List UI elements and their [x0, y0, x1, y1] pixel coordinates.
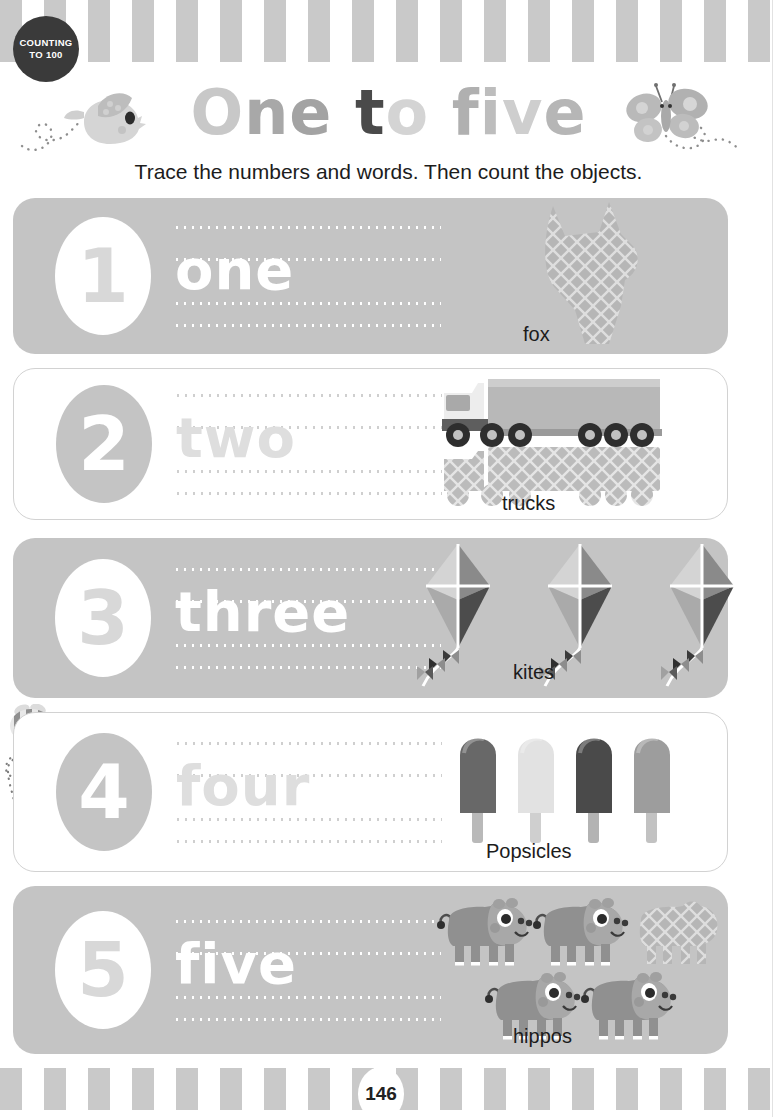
number-circle-3[interactable]: 3 — [55, 559, 151, 677]
title-letter-7: f — [452, 76, 480, 149]
truck — [426, 373, 676, 508]
trace-number-2: 2 — [78, 407, 130, 481]
counting-to-100-badge: COUNTING TO 100 — [13, 16, 79, 82]
right-edge-line — [772, 0, 773, 1117]
trace-guideline-3 — [173, 302, 441, 305]
popsicle — [570, 721, 618, 846]
worksheet-row-4: 4fourPopsicles — [13, 712, 728, 872]
object-label-popsicle: Popsicles — [486, 840, 572, 863]
hippo — [529, 892, 635, 976]
worksheet-row-2: 2twotrucks — [13, 368, 728, 520]
number-circle-2[interactable]: 2 — [56, 385, 152, 503]
instruction-text: Trace the numbers and words. Then count … — [0, 160, 777, 184]
trace-word-four: four — [176, 758, 310, 814]
top-stripe-band — [0, 0, 777, 62]
object-illustration-popsicle — [454, 721, 676, 846]
title-letter-4: t — [355, 76, 386, 149]
trace-word-five: five — [175, 936, 297, 992]
trace-guideline-3 — [173, 996, 441, 999]
trace-guideline-3 — [173, 644, 441, 647]
trace-word-one: one — [175, 242, 294, 298]
object-label-hippo: hippos — [513, 1025, 572, 1048]
title-letter-3 — [332, 76, 355, 149]
hippo-silhouette — [625, 892, 731, 976]
object-label-kite: kites — [513, 661, 554, 684]
trace-guideline-4 — [174, 840, 442, 843]
title-letter-2: e — [289, 76, 332, 149]
popsicle — [512, 721, 560, 846]
tracing-area-3[interactable]: three — [173, 566, 441, 670]
tracing-area-5[interactable]: five — [173, 918, 441, 1022]
trace-guideline-4 — [173, 666, 441, 669]
worksheet-row-1: 1onefox — [13, 198, 728, 354]
popsicle — [628, 721, 676, 846]
trace-guideline-1 — [173, 920, 441, 923]
number-circle-5[interactable]: 5 — [55, 911, 151, 1029]
kite — [413, 540, 503, 690]
trace-guideline-4 — [174, 492, 442, 495]
trace-guideline-1 — [173, 226, 441, 229]
number-circle-4[interactable]: 4 — [56, 733, 152, 851]
title-letter-6 — [429, 76, 452, 149]
trace-guideline-3 — [174, 818, 442, 821]
trace-number-5: 5 — [77, 933, 129, 1007]
object-label-truck: trucks — [502, 492, 555, 515]
trace-guideline-1 — [173, 568, 441, 571]
tracing-area-2[interactable]: two — [174, 392, 442, 496]
title-letter-5: o — [386, 76, 430, 149]
badge-line-2: TO 100 — [29, 49, 62, 61]
page-title: One to five — [0, 76, 777, 149]
trace-guideline-4 — [173, 324, 441, 327]
trace-guideline-1 — [174, 394, 442, 397]
kite — [657, 540, 747, 690]
title-letter-10: e — [543, 76, 586, 149]
popsicle — [454, 721, 502, 846]
trace-number-1: 1 — [77, 239, 129, 313]
trace-word-three: three — [175, 584, 350, 640]
tracing-area-1[interactable]: one — [173, 224, 441, 328]
title-letter-1: n — [244, 76, 289, 149]
trace-number-3: 3 — [77, 581, 129, 655]
object-illustration-kite — [413, 540, 747, 690]
worksheet-row-5: 5fivehippos — [13, 886, 728, 1054]
trace-number-4: 4 — [78, 755, 130, 829]
object-illustration-hippo — [433, 892, 723, 1042]
trace-guideline-1 — [174, 742, 442, 745]
hippo — [577, 966, 683, 1050]
trace-guideline-3 — [174, 470, 442, 473]
title-letter-8: i — [480, 76, 502, 149]
object-label-fox: fox — [523, 323, 550, 346]
trace-word-two: two — [176, 410, 296, 466]
worksheet-row-3: 3threekites — [13, 538, 728, 698]
title-letter-0: O — [190, 76, 244, 149]
badge-line-1: COUNTING — [19, 37, 72, 49]
number-circle-1[interactable]: 1 — [55, 217, 151, 335]
fox-silhouette — [513, 194, 713, 344]
page-number: 146 — [358, 1067, 404, 1117]
trace-guideline-4 — [173, 1018, 441, 1021]
title-letter-9: v — [502, 76, 543, 149]
tracing-area-4[interactable]: four — [174, 740, 442, 844]
hippo — [433, 892, 539, 976]
